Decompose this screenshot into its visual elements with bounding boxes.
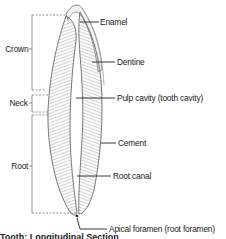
label-dentine: Dentine (117, 56, 145, 67)
region-label-root: Root (11, 160, 28, 171)
label-pulp-cavity: Pulp cavity (tooth cavity) (117, 92, 203, 103)
neck-bracket (29, 95, 48, 112)
dentine-left (48, 16, 77, 215)
tooth-diagram: Crown Neck Root Enamel Dentine Pulp cavi… (0, 0, 226, 239)
figure-caption: Tooth: Longitudinal Section (0, 232, 119, 239)
dentine-right (79, 12, 102, 214)
region-label-crown: Crown (5, 43, 28, 54)
label-root-canal: Root canal (113, 170, 151, 181)
label-enamel: Enamel (100, 16, 127, 27)
label-cement: Cement (118, 137, 146, 148)
tooth-illustration (0, 0, 226, 239)
region-label-neck: Neck (10, 97, 28, 108)
label-apical-foramen: Apical foramen (root foramen) (109, 223, 215, 234)
